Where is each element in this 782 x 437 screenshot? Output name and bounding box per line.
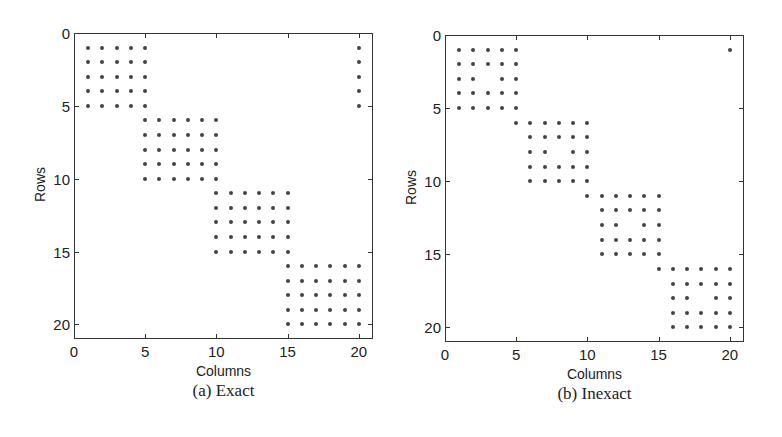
panel-inexact: Rows Columns (b) Inexact 051015200510152…	[0, 0, 391, 437]
data-point	[671, 282, 675, 286]
data-point	[728, 311, 732, 315]
data-point	[600, 238, 604, 242]
x-axis-label: Columns	[567, 366, 622, 382]
data-point	[600, 194, 604, 198]
data-point	[628, 238, 632, 242]
y-tick-label: 20	[411, 319, 441, 336]
y-tick	[739, 254, 744, 255]
data-point	[728, 48, 732, 52]
data-point	[728, 267, 732, 271]
data-point	[628, 194, 632, 198]
x-tick	[730, 35, 731, 40]
x-tick	[445, 337, 446, 342]
x-tick	[587, 35, 588, 40]
data-point	[614, 194, 618, 198]
y-tick-label: 5	[411, 100, 441, 117]
x-tick-label: 20	[721, 346, 738, 363]
x-tick	[516, 337, 517, 342]
data-point	[557, 121, 561, 125]
x-tick	[587, 337, 588, 342]
data-point	[486, 48, 490, 52]
data-point	[543, 165, 547, 169]
data-point	[728, 282, 732, 286]
y-tick	[445, 254, 450, 255]
x-tick	[516, 35, 517, 40]
y-tick-label: 0	[411, 27, 441, 44]
data-point	[685, 311, 689, 315]
data-point	[714, 311, 718, 315]
data-point	[671, 311, 675, 315]
data-point	[685, 267, 689, 271]
data-point	[657, 252, 661, 256]
y-tick	[445, 35, 450, 36]
data-point	[557, 165, 561, 169]
y-tick	[739, 327, 744, 328]
data-point	[685, 282, 689, 286]
data-point	[571, 165, 575, 169]
data-point	[500, 77, 504, 81]
plot-area	[445, 35, 744, 342]
y-tick-label: 15	[411, 246, 441, 263]
x-tick-label: 0	[441, 346, 449, 363]
data-point	[486, 62, 490, 66]
data-point	[600, 223, 604, 227]
data-point	[543, 121, 547, 125]
x-tick	[730, 337, 731, 342]
y-tick	[445, 108, 450, 109]
data-point	[671, 267, 675, 271]
data-point	[728, 296, 732, 300]
data-point	[500, 106, 504, 110]
data-point	[699, 282, 703, 286]
data-point	[500, 48, 504, 52]
data-point	[714, 267, 718, 271]
data-point	[657, 223, 661, 227]
data-point	[514, 48, 518, 52]
x-tick-label: 5	[512, 346, 520, 363]
data-point	[657, 238, 661, 242]
data-point	[657, 194, 661, 198]
panel-caption: (b) Inexact	[557, 384, 631, 404]
y-tick	[739, 35, 744, 36]
data-point	[543, 150, 547, 154]
data-point	[457, 48, 461, 52]
y-tick	[739, 108, 744, 109]
y-tick	[445, 327, 450, 328]
x-tick	[659, 337, 660, 342]
data-point	[671, 296, 675, 300]
data-point	[714, 282, 718, 286]
data-point	[514, 121, 518, 125]
data-point	[714, 325, 718, 329]
x-tick	[659, 35, 660, 40]
data-point	[571, 121, 575, 125]
data-point	[657, 267, 661, 271]
data-point	[600, 252, 604, 256]
data-point	[543, 179, 547, 183]
data-point	[486, 106, 490, 110]
data-point	[614, 238, 618, 242]
data-point	[714, 296, 718, 300]
y-tick	[445, 181, 450, 182]
y-tick-label: 10	[411, 173, 441, 190]
data-point	[614, 223, 618, 227]
x-tick-label: 15	[650, 346, 667, 363]
x-tick-label: 10	[579, 346, 596, 363]
y-tick	[739, 181, 744, 182]
